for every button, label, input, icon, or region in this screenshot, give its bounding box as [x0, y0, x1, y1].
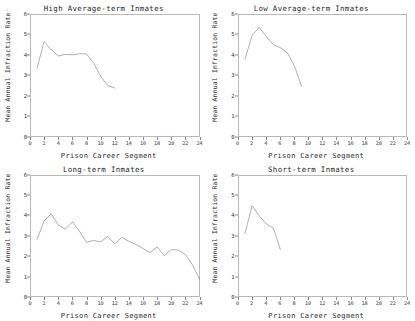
x-axis-tick-mark: [351, 297, 352, 300]
x-axis-tick-mark: [157, 297, 158, 300]
y-axis-tick-mark: [235, 194, 238, 195]
y-axis-tick-mark: [27, 174, 30, 175]
x-axis-tick-label: 6: [278, 300, 281, 306]
x-axis-tick-mark: [238, 137, 239, 140]
y-axis-tick-mark: [27, 235, 30, 236]
x-axis-tick-mark: [30, 137, 31, 140]
panel-title: Short-term Inmates: [208, 165, 415, 174]
x-axis-tick-mark: [266, 297, 267, 300]
x-axis-tick-mark: [252, 137, 253, 140]
x-axis-tick-label: 20: [168, 300, 174, 306]
x-axis-tick-label: 24: [196, 140, 202, 146]
x-axis-tick-label: 20: [376, 300, 382, 306]
x-axis-tick-mark: [101, 137, 102, 140]
x-axis-tick-mark: [365, 137, 366, 140]
x-axis-tick-label: 14: [126, 300, 132, 306]
x-axis-tick-label: 8: [85, 300, 88, 306]
x-axis-tick-mark: [280, 297, 281, 300]
y-axis-tick-mark: [235, 116, 238, 117]
x-axis-tick-label: 18: [154, 300, 160, 306]
y-axis-label: Mean Annual Infraction Rate: [2, 0, 13, 135]
x-axis-tick-label: 0: [28, 140, 31, 146]
x-axis-tick-mark: [185, 137, 186, 140]
x-axis-tick-mark: [129, 137, 130, 140]
x-axis-tick-mark: [407, 137, 408, 140]
x-axis-tick-mark: [44, 137, 45, 140]
x-axis-label: Prison Career Segment: [222, 312, 412, 320]
x-axis-tick-mark: [393, 297, 394, 300]
x-axis-tick-mark: [143, 137, 144, 140]
x-axis-tick-label: 10: [98, 300, 104, 306]
y-axis-label: Mean Annual Infraction Rate: [2, 161, 13, 296]
x-axis-tick-label: 4: [57, 140, 60, 146]
x-axis-tick-mark: [87, 297, 88, 300]
x-axis-tick-label: 18: [362, 140, 368, 146]
x-axis-tick-mark: [252, 297, 253, 300]
panel-short-term: Short-term Inmates Mean Annual Infractio…: [208, 161, 415, 321]
x-axis-tick-label: 14: [333, 300, 339, 306]
x-axis-tick-label: 20: [376, 140, 382, 146]
line-series: [238, 14, 408, 137]
line-series: [238, 175, 408, 298]
x-axis-tick-mark: [308, 137, 309, 140]
x-axis-tick-label: 22: [182, 140, 188, 146]
y-axis-tick-mark: [27, 194, 30, 195]
x-axis-tick-mark: [322, 297, 323, 300]
x-axis-label: Prison Career Segment: [222, 152, 412, 160]
x-axis-tick-mark: [294, 137, 295, 140]
x-axis-tick-mark: [129, 297, 130, 300]
x-axis-tick-mark: [280, 137, 281, 140]
x-axis-tick-mark: [336, 297, 337, 300]
y-axis-label: Mean Annual Infraction Rate: [210, 0, 221, 135]
x-axis-tick-mark: [308, 297, 309, 300]
x-axis-tick-label: 10: [98, 140, 104, 146]
y-axis-tick-mark: [235, 34, 238, 35]
y-axis-tick-mark: [235, 75, 238, 76]
x-axis-tick-label: 6: [278, 140, 281, 146]
y-axis-label: Mean Annual Infraction Rate: [210, 161, 221, 296]
x-axis-tick-label: 12: [319, 140, 325, 146]
x-axis-tick-label: 24: [404, 300, 410, 306]
x-axis-tick-label: 8: [292, 300, 295, 306]
x-axis-tick-mark: [200, 137, 201, 140]
x-axis-tick-mark: [58, 297, 59, 300]
y-axis-tick-mark: [235, 215, 238, 216]
x-axis-tick-mark: [294, 297, 295, 300]
x-axis-tick-label: 2: [250, 140, 253, 146]
x-axis-tick-mark: [407, 297, 408, 300]
x-axis-tick-label: 6: [71, 140, 74, 146]
x-axis-tick-label: 0: [28, 300, 31, 306]
x-axis-tick-label: 16: [347, 140, 353, 146]
y-axis-tick-mark: [235, 14, 238, 15]
x-axis-tick-mark: [171, 137, 172, 140]
x-axis-tick-label: 8: [292, 140, 295, 146]
x-axis-tick-label: 14: [126, 140, 132, 146]
y-axis-tick-mark: [235, 256, 238, 257]
x-axis-tick-mark: [322, 137, 323, 140]
y-axis-tick-mark: [27, 34, 30, 35]
line-series: [30, 14, 200, 137]
x-axis-tick-mark: [351, 137, 352, 140]
x-axis-tick-label: 10: [305, 140, 311, 146]
x-axis-tick-label: 0: [236, 300, 239, 306]
y-axis-tick-mark: [27, 276, 30, 277]
x-axis-label: Prison Career Segment: [14, 312, 204, 320]
panel-high-average-term: High Average-term Inmates Mean Annual In…: [0, 0, 208, 161]
y-axis-tick-mark: [27, 256, 30, 257]
x-axis-tick-mark: [266, 137, 267, 140]
x-axis-tick-label: 18: [154, 140, 160, 146]
x-axis-tick-label: 4: [264, 300, 267, 306]
x-axis-tick-mark: [379, 297, 380, 300]
x-axis-tick-label: 16: [347, 300, 353, 306]
x-axis-tick-label: 12: [112, 300, 118, 306]
x-axis-tick-mark: [143, 297, 144, 300]
y-axis-tick-mark: [27, 75, 30, 76]
x-axis-tick-label: 20: [168, 140, 174, 146]
x-axis-tick-label: 2: [250, 300, 253, 306]
panel-title: Long-term Inmates: [0, 165, 208, 174]
x-axis-tick-label: 0: [236, 140, 239, 146]
x-axis-tick-label: 6: [71, 300, 74, 306]
panel-low-average-term: Low Average-term Inmates Mean Annual Inf…: [208, 0, 415, 161]
x-axis-tick-mark: [171, 297, 172, 300]
x-axis-tick-label: 16: [140, 140, 146, 146]
